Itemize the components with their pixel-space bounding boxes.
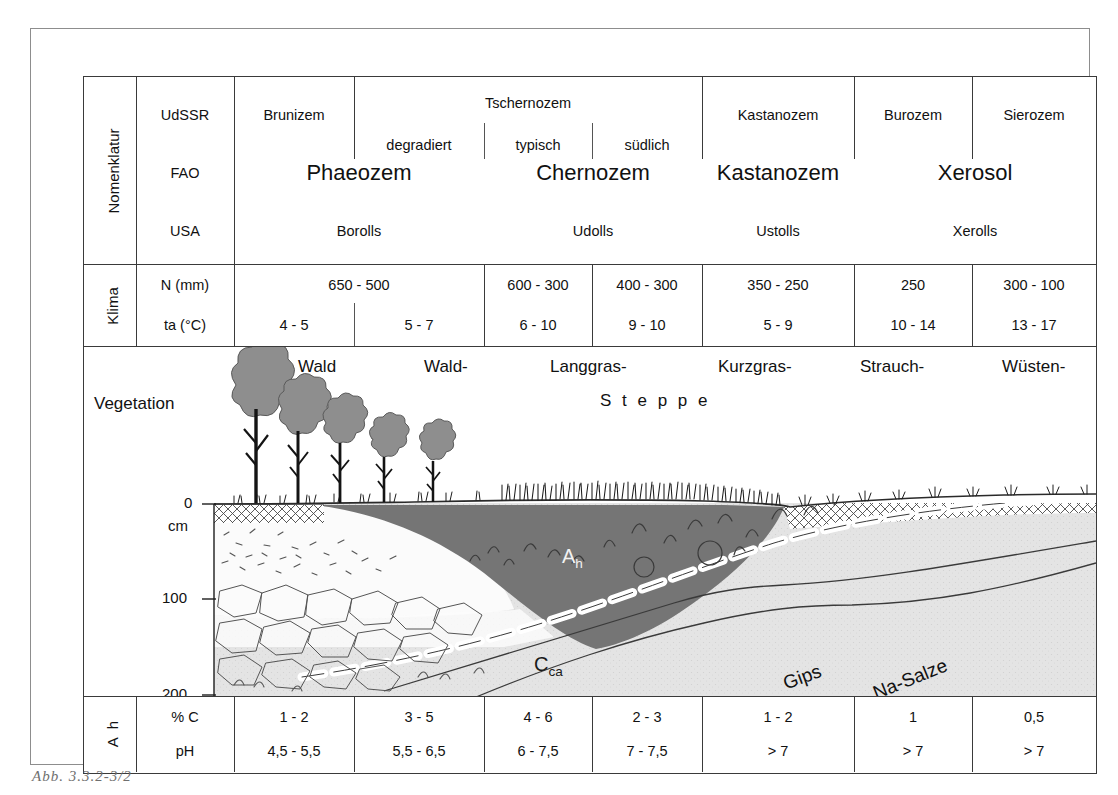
divider-klima-4 bbox=[854, 265, 855, 347]
klima-ta-cell-0: 4 - 5 bbox=[234, 313, 354, 337]
ah-pctc-cell-1: 3 - 5 bbox=[354, 705, 484, 729]
klima-n-cell-4: 250 bbox=[854, 273, 972, 297]
label-usa: USA bbox=[136, 219, 234, 243]
usa-cell-borolls: Borolls bbox=[234, 219, 484, 243]
ah-ph-cell-2: 6 - 7,5 bbox=[484, 739, 592, 763]
veg-label-steppe: S t e p p e bbox=[600, 391, 711, 411]
fao-cell-xerosol: Xerosol bbox=[854, 157, 1096, 189]
udssr-cell-suedlich: südlich bbox=[592, 133, 702, 157]
divider-udssr-1 bbox=[354, 77, 355, 159]
fao-cell-phaeozem: Phaeozem bbox=[234, 157, 484, 189]
row-label-nomenklatur: Nomenklatur bbox=[84, 101, 144, 241]
ah-pctc-cell-3: 2 - 3 bbox=[592, 705, 702, 729]
ah-pctc-cell-5: 1 bbox=[854, 705, 972, 729]
divider-udssr-3 bbox=[592, 123, 593, 159]
klima-n-cell-3: 350 - 250 bbox=[702, 273, 854, 297]
divider-ah-2 bbox=[484, 697, 485, 772]
divider-ah-3 bbox=[592, 697, 593, 772]
label-n-mm: N (mm) bbox=[136, 273, 234, 297]
depth-tick-0: 0 bbox=[184, 494, 192, 511]
divider-udssr-2 bbox=[484, 123, 485, 159]
row-label-vegetation: Vegetation bbox=[94, 394, 174, 414]
klima-n-cell-2: 400 - 300 bbox=[592, 273, 702, 297]
horizon-label-ah: Ah bbox=[562, 545, 583, 571]
row-label-ah: Ah bbox=[98, 689, 128, 779]
klima-n-cell-0: 650 - 500 bbox=[234, 273, 484, 297]
klima-ta-cell-3: 9 - 10 bbox=[592, 313, 702, 337]
divider-klima-1 bbox=[484, 265, 485, 347]
udssr-cell-degradiert: degradiert bbox=[354, 133, 484, 157]
klima-ta-cell-6: 13 - 17 bbox=[972, 313, 1096, 337]
depth-tick-100: 100 bbox=[162, 589, 187, 606]
figure-page: Nomenklatur UdSSR FAO USA Brunizem degra… bbox=[0, 0, 1118, 795]
divider-udssr-6 bbox=[972, 77, 973, 159]
usa-cell-udolls: Udolls bbox=[484, 219, 702, 243]
depth-unit-cm: cm bbox=[168, 517, 188, 534]
climate-section: Klima N (mm) ta (°C) 650 - 500 600 - 300… bbox=[84, 265, 1096, 347]
label-pct-c: % C bbox=[136, 705, 234, 729]
row-label-klima: Klima bbox=[98, 261, 128, 351]
horizon-label-cca: Cca bbox=[534, 653, 563, 679]
ah-pctc-cell-0: 1 - 2 bbox=[234, 705, 354, 729]
veg-label-kurzgras: Kurzgras- bbox=[718, 357, 792, 377]
tree-group bbox=[231, 347, 455, 503]
veg-label-wuesten: Wüsten- bbox=[1002, 357, 1065, 377]
soil-catena-figure: Nomenklatur UdSSR FAO USA Brunizem degra… bbox=[83, 76, 1097, 774]
ah-ph-cell-6: > 7 bbox=[972, 739, 1096, 763]
usa-cell-ustolls: Ustolls bbox=[702, 219, 854, 243]
ah-ph-cell-5: > 7 bbox=[854, 739, 972, 763]
divider-ah-4 bbox=[702, 697, 703, 772]
udssr-cell-typisch: typisch bbox=[484, 133, 592, 157]
row-label-ah-a: A bbox=[104, 737, 121, 747]
divider-udssr-4 bbox=[702, 77, 703, 159]
ah-pctc-cell-6: 0,5 bbox=[972, 705, 1096, 729]
label-ph: pH bbox=[136, 739, 234, 763]
ah-pctc-cell-2: 4 - 6 bbox=[484, 705, 592, 729]
soil-profile-drawing bbox=[84, 347, 1096, 697]
udssr-cell-brunizem: Brunizem bbox=[234, 103, 354, 127]
divider-ah-6 bbox=[972, 697, 973, 772]
veg-label-langgras: Langgras- bbox=[550, 357, 627, 377]
fao-cell-kastanozem: Kastanozem bbox=[702, 157, 854, 189]
udssr-cell-sierozem: Sierozem bbox=[972, 103, 1096, 127]
ah-pctc-cell-4: 1 - 2 bbox=[702, 705, 854, 729]
veg-label-wald: Wald bbox=[298, 357, 336, 377]
udssr-cell-kastanozem: Kastanozem bbox=[702, 103, 854, 127]
ah-ph-cell-0: 4,5 - 5,5 bbox=[234, 739, 354, 763]
horizon-ah-base: A bbox=[562, 545, 575, 567]
fao-cell-chernozem: Chernozem bbox=[484, 157, 702, 189]
horizon-ah-sub: h bbox=[575, 556, 583, 571]
label-fao: FAO bbox=[136, 161, 234, 185]
horizon-cca-base: C bbox=[534, 653, 548, 675]
ah-ph-cell-3: 7 - 7,5 bbox=[592, 739, 702, 763]
label-udssr: UdSSR bbox=[136, 103, 234, 127]
label-ta-c: ta (°C) bbox=[136, 313, 234, 337]
divider-klima-3 bbox=[702, 265, 703, 347]
divider-ah-1 bbox=[354, 697, 355, 772]
klima-ta-cell-2: 6 - 10 bbox=[484, 313, 592, 337]
nomenclature-section: Nomenklatur UdSSR FAO USA Brunizem degra… bbox=[84, 77, 1096, 265]
figure-caption: Abb. 3.3.2-3/2 bbox=[32, 768, 132, 785]
divider-klima-ta-split bbox=[354, 303, 355, 347]
horizon-cca-sub: ca bbox=[548, 664, 562, 679]
usa-cell-xerolls: Xerolls bbox=[854, 219, 1096, 243]
veg-label-wald-steppe: Wald- bbox=[424, 357, 468, 377]
outer-frame: Nomenklatur UdSSR FAO USA Brunizem degra… bbox=[30, 28, 1090, 765]
klima-ta-cell-5: 10 - 14 bbox=[854, 313, 972, 337]
divider-klima-2 bbox=[592, 265, 593, 347]
klima-ta-cell-4: 5 - 9 bbox=[702, 313, 854, 337]
ah-ph-cell-4: > 7 bbox=[702, 739, 854, 763]
klima-n-cell-5: 300 - 100 bbox=[972, 273, 1096, 297]
ah-properties-section: Ah % C pH 1 - 2 3 - 5 4 - 6 2 - 3 1 - 2 … bbox=[84, 697, 1096, 772]
divider-klima-5 bbox=[972, 265, 973, 347]
klima-n-cell-1: 600 - 300 bbox=[484, 273, 592, 297]
veg-label-strauch: Strauch- bbox=[860, 357, 924, 377]
row-label-ah-h: h bbox=[104, 721, 121, 729]
udssr-group-tschernozem: Tschernozem bbox=[354, 91, 702, 115]
divider-ah-5 bbox=[854, 697, 855, 772]
vegetation-profile-section: Vegetation Wald Wald- Langgras- Kurzgras… bbox=[84, 347, 1096, 697]
udssr-cell-burozem: Burozem bbox=[854, 103, 972, 127]
divider-udssr-5 bbox=[854, 77, 855, 159]
ah-ph-cell-1: 5,5 - 6,5 bbox=[354, 739, 484, 763]
klima-ta-cell-1: 5 - 7 bbox=[354, 313, 484, 337]
